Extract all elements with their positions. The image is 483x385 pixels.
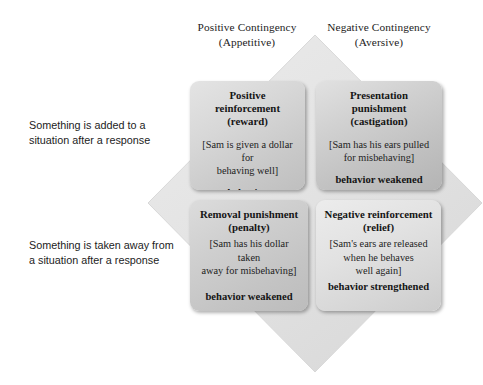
- cell-negative-reinforcement-example-line3: well again]: [323, 264, 434, 277]
- cell-removal-punishment-subtitle: (penalty): [197, 221, 301, 234]
- cell-positive-reinforcement-subtitle: (reward): [197, 115, 298, 128]
- cell-positive-reinforcement-example-line1: [Sam is given a dollar for: [197, 138, 298, 164]
- cell-removal-punishment-outcome: behavior weakened: [197, 290, 301, 303]
- cell-negative-reinforcement: Negative reinforcement (relief) [Sam's e…: [316, 200, 441, 311]
- row-label-added-line1: Something is added to a: [29, 118, 197, 133]
- cell-presentation-punishment-outcome: behavior weakened: [323, 173, 435, 186]
- spacer: [197, 277, 301, 290]
- cell-positive-reinforcement-example-line2: behaving well]: [197, 164, 298, 177]
- cell-removal-punishment-example-line2: away for misbehaving]: [197, 264, 301, 277]
- cell-presentation-punishment-title: Presentation punishment: [323, 89, 435, 115]
- spacer: [197, 129, 298, 138]
- cell-removal-punishment-title: Removal punishment: [197, 208, 301, 221]
- column-header-positive-line1: Positive Contingency: [180, 20, 314, 35]
- row-label-something-taken-away: Something is taken away from a situation…: [29, 238, 209, 268]
- column-header-positive-line2: (Appetitive): [180, 35, 314, 50]
- cell-negative-reinforcement-subtitle: (relief): [323, 221, 434, 234]
- row-label-removed-line1: Something is taken away from: [29, 238, 209, 253]
- diagram-canvas: Positive Contingency (Appetitive) Negati…: [0, 0, 483, 385]
- spacer: [197, 177, 298, 186]
- column-header-negative-line2: (Aversive): [312, 35, 446, 50]
- cell-positive-reinforcement-title: Positive reinforcement: [197, 89, 298, 115]
- row-label-added-line2: situation after a response: [29, 133, 197, 148]
- cell-negative-reinforcement-outcome: behavior strengthened: [323, 280, 434, 293]
- row-label-removed-line2: a situation after a response: [29, 253, 209, 268]
- spacer: [323, 129, 435, 138]
- cell-negative-reinforcement-example-line2: when he behaves: [323, 251, 434, 264]
- cell-presentation-punishment-subtitle: (castigation): [323, 115, 435, 128]
- column-header-negative-contingency: Negative Contingency (Aversive): [312, 20, 446, 49]
- cell-negative-reinforcement-example-line1: [Sam's ears are released: [323, 237, 434, 250]
- cell-removal-punishment-example-line1: [Sam has his dollar taken: [197, 237, 301, 263]
- cell-removal-punishment: Removal punishment (penalty) [Sam has hi…: [190, 200, 308, 311]
- column-header-negative-line1: Negative Contingency: [312, 20, 446, 35]
- cell-negative-reinforcement-title: Negative reinforcement: [323, 208, 434, 221]
- cell-presentation-punishment-example-line2: for misbehaving]: [323, 151, 435, 164]
- cell-positive-reinforcement: Positive reinforcement (reward) [Sam is …: [190, 81, 305, 190]
- row-label-something-added: Something is added to a situation after …: [29, 118, 197, 148]
- cell-presentation-punishment: Presentation punishment (castigation) [S…: [316, 81, 442, 190]
- spacer: [323, 164, 435, 173]
- column-header-positive-contingency: Positive Contingency (Appetitive): [180, 20, 314, 49]
- cell-positive-reinforcement-outcome: behavior strengthened: [197, 186, 298, 190]
- cell-presentation-punishment-example-line1: [Sam has his ears pulled: [323, 138, 435, 151]
